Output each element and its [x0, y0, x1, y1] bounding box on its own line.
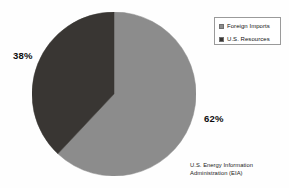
source-attribution: U.S. Energy Information Administration (…: [190, 161, 253, 177]
legend-label-foreign-imports: Foreign Imports: [227, 23, 270, 30]
chart-legend: Foreign Imports U.S. Resources: [214, 17, 281, 45]
legend-swatch-icon-foreign-imports: [219, 24, 224, 29]
legend-swatch-icon-us-resources: [219, 37, 224, 42]
pie-svg: [32, 12, 196, 176]
data-label-us-resources: 38%: [13, 50, 33, 61]
chart-canvas: 38% 62% Foreign Imports U.S. Resources U…: [0, 0, 289, 188]
legend-item-us-resources[interactable]: U.S. Resources: [219, 34, 277, 45]
pie-chart: [32, 12, 196, 176]
attribution-line-2: Administration (EIA): [190, 169, 253, 177]
legend-label-us-resources: U.S. Resources: [227, 36, 270, 43]
data-label-foreign-imports: 62%: [204, 113, 224, 124]
attribution-line-1: U.S. Energy Information: [190, 161, 253, 169]
legend-item-foreign-imports[interactable]: Foreign Imports: [219, 21, 277, 32]
